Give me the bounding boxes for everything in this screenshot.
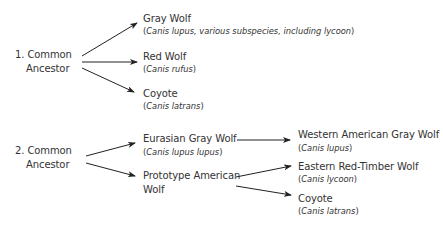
ancestor2-line1: 2. Common	[15, 145, 72, 157]
coyote2-scientific: (Canis latrans)	[298, 206, 359, 217]
arrow-ancestor1-to-gray-wolf	[82, 23, 137, 56]
western-american-gray-wolf-scientific: (Canis lupus)	[298, 143, 352, 154]
ancestor1-line1: 1. Common	[15, 49, 72, 61]
arrow-ancestor2-to-eurasian	[86, 143, 135, 156]
prototype-american-wolf-line2: Wolf	[143, 184, 164, 196]
red-wolf-scientific: (Canis rufus)	[143, 64, 196, 75]
arrow-prototype-to-coyote	[236, 186, 291, 195]
eurasian-gray-wolf-scientific: (Canis lupus lupus)	[143, 147, 222, 158]
coyote1-scientific: (Canis latrans)	[143, 101, 204, 112]
eastern-red-timber-wolf-name: Eastern Red-Timber Wolf	[298, 161, 418, 173]
red-wolf-name: Red Wolf	[143, 51, 186, 63]
western-american-gray-wolf-name: Western American Gray Wolf	[298, 129, 439, 141]
eurasian-gray-wolf-name: Eurasian Gray Wolf	[143, 133, 237, 145]
coyote2-name: Coyote	[298, 193, 333, 205]
ancestor1-line2: Ancestor	[26, 63, 69, 75]
gray-wolf-name: Gray Wolf	[143, 13, 191, 25]
arrow-ancestor1-to-coyote	[82, 68, 134, 92]
arrow-prototype-to-eastern	[236, 166, 291, 177]
eastern-red-timber-wolf-scientific: (Canis lycoon)	[298, 174, 357, 185]
gray-wolf-scientific: (Canis lupus, various subspecies, includ…	[143, 26, 354, 37]
coyote1-name: Coyote	[143, 88, 178, 100]
prototype-american-wolf-line1: Prototype American	[143, 170, 240, 182]
wolf-lineage-diagram: 1. Common Ancestor Gray Wolf (Canis lupu…	[0, 0, 443, 229]
arrow-ancestor2-to-prototype	[86, 163, 135, 176]
ancestor2-line2: Ancestor	[26, 159, 69, 171]
